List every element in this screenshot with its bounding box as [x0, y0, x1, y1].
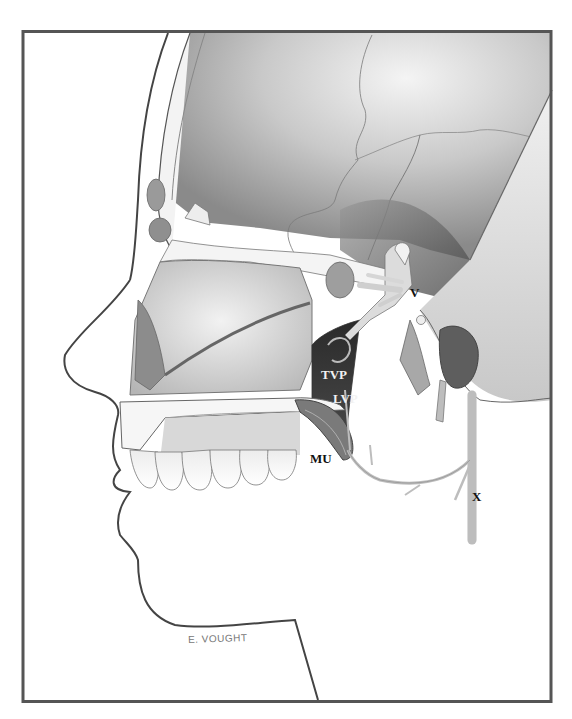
label-levator-veli-palatini: LVP — [333, 392, 358, 405]
label-musculus-uvulae: MU — [310, 452, 332, 465]
anatomical-illustration: V TVP LVP MU X E. VOUGHT — [0, 0, 572, 719]
label-tensor-veli-palatini: TVP — [321, 368, 347, 381]
label-trigeminal-v: V — [410, 286, 419, 299]
label-vagus-x: X — [472, 490, 481, 503]
artist-signature: E. VOUGHT — [188, 632, 248, 645]
nasal-cavity — [130, 260, 312, 395]
illustration-svg — [0, 0, 572, 719]
vagus-nerve — [345, 390, 472, 540]
